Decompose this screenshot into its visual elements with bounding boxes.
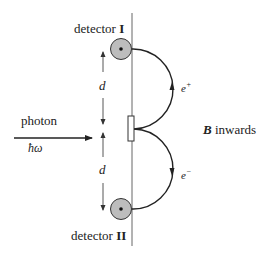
photon-energy-label: ħω xyxy=(28,142,42,154)
electron-direction-arrow-icon xyxy=(170,168,175,176)
photon-label: photon xyxy=(21,114,57,127)
electron-charge: − xyxy=(186,167,191,176)
detector-one-numeral: I xyxy=(119,21,124,36)
distance-lower-label: d xyxy=(99,163,106,176)
field-direction: inwards xyxy=(215,122,256,137)
electron-label: e− xyxy=(181,168,191,181)
electron-trajectory xyxy=(132,129,173,209)
detector-two-label: detector II xyxy=(71,229,126,242)
detector-two-numeral: II xyxy=(116,228,126,243)
distance-upper-label: d xyxy=(99,79,106,92)
pair-production-diagram: detector I detector II photon ħω d d e+ … xyxy=(0,0,264,256)
detector-one-text: detector xyxy=(74,21,116,36)
positron-charge: + xyxy=(186,80,191,89)
positron-trajectory xyxy=(132,49,173,129)
converter-plate xyxy=(128,116,134,141)
positron-label: e+ xyxy=(181,81,191,94)
detector-two-icon xyxy=(111,199,132,220)
detector-two-text: detector xyxy=(71,228,113,243)
detector-one-icon xyxy=(111,39,132,60)
detector-one-label: detector I xyxy=(74,22,124,35)
magnetic-field-label: B inwards xyxy=(203,123,256,136)
field-symbol: B xyxy=(203,122,212,137)
positron-direction-arrow-icon xyxy=(170,82,175,90)
